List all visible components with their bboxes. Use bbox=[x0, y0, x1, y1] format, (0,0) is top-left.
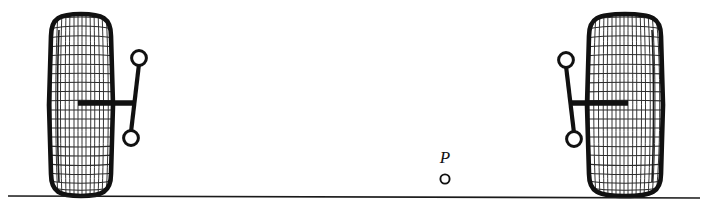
point-p-marker bbox=[440, 174, 449, 183]
point-p-group: P bbox=[439, 148, 450, 184]
left-upper-joint bbox=[132, 51, 147, 66]
right-strut-bar bbox=[566, 66, 574, 133]
figure-canvas: P bbox=[0, 0, 704, 216]
left-lower-joint bbox=[124, 131, 139, 146]
ground-line bbox=[8, 196, 700, 198]
right-lower-joint bbox=[567, 132, 582, 147]
mechanics-diagram: P bbox=[0, 0, 704, 216]
point-p-label: P bbox=[439, 148, 450, 167]
right-upper-joint bbox=[559, 53, 574, 68]
left-strut-bar bbox=[131, 64, 139, 132]
